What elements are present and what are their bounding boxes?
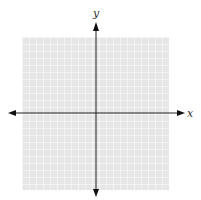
x-axis-label: x [187, 107, 194, 120]
y-axis-bottom-arrow-icon [93, 189, 99, 197]
coordinate-plane: y x [0, 0, 201, 200]
x-axis-right-arrow-icon [177, 110, 185, 116]
x-axis-left-arrow-icon [8, 110, 16, 116]
y-axis-top-arrow-icon [93, 22, 99, 31]
y-axis-label: y [92, 7, 100, 20]
